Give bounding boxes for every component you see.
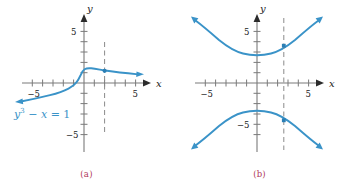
x-tick-label-5-a: 5: [133, 89, 138, 99]
eqn-a-equals: =: [51, 108, 60, 121]
panel-b: x y −5 5 5 −5 y2 − x2 = 9 (b): [173, 0, 346, 185]
curve-a: [15, 68, 144, 104]
y-axis-label-a: y: [86, 3, 93, 14]
graph-b: x y −5 5 5 −5: [173, 0, 346, 185]
equation-label-a: y3 − x = 1: [14, 107, 70, 121]
x-axis-a: [22, 80, 151, 87]
y-tick-label-neg5-a: −5: [66, 130, 79, 140]
eqn-a-x: x: [41, 108, 47, 121]
caption-a: (a): [0, 169, 173, 179]
intersection-point-b-lower: [282, 118, 286, 122]
y-axis-label-b: y: [259, 3, 266, 14]
x-tick-label-neg5-a: −5: [28, 89, 41, 99]
y-tick-label-neg5-b: −5: [237, 120, 250, 130]
intersection-point-a: [103, 69, 107, 73]
x-tick-label-neg5-b: −5: [201, 89, 214, 99]
x-axis-b: [195, 80, 324, 87]
figure-container: x y −5 5 5 −5 y3 − x = 1 (a): [0, 0, 346, 185]
x-axis-label-b: x: [329, 78, 335, 89]
y-tick-label-5-b: 5: [244, 27, 249, 37]
panel-a: x y −5 5 5 −5 y3 − x = 1 (a): [0, 0, 173, 185]
caption-b: (b): [173, 169, 346, 179]
y-tick-label-5-a: 5: [71, 27, 76, 37]
intersection-point-b-upper: [282, 44, 286, 48]
eqn-a-rhs: 1: [63, 108, 70, 121]
graph-a: x y −5 5 5 −5: [0, 0, 173, 185]
x-tick-label-5-b: 5: [306, 89, 311, 99]
eqn-a-minus: −: [28, 108, 37, 121]
x-axis-label-a: x: [156, 78, 162, 89]
